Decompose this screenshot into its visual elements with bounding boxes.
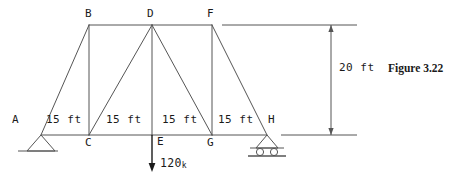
panel-dimension-label-3: 15 ft bbox=[162, 114, 198, 125]
height-dimension-label: 20 ft bbox=[339, 62, 375, 73]
truss-figure: ABCDEFGH 15 ft15 ft15 ft15 ft 20 ft 120k… bbox=[0, 0, 475, 183]
figure-caption: Figure 3.22 bbox=[388, 62, 443, 74]
joint-label-A: A bbox=[12, 114, 19, 125]
height-dimension-arrowhead-bottom bbox=[328, 128, 333, 135]
roller-wheel-2 bbox=[270, 148, 277, 155]
height-dimension-arrowhead-top bbox=[328, 25, 333, 32]
load-magnitude-value: 120 bbox=[160, 156, 182, 170]
load-arrow-120k bbox=[149, 135, 156, 172]
panel-dimension-label-4: 15 ft bbox=[218, 114, 254, 125]
truss-diagram-canvas bbox=[0, 0, 475, 183]
panel-dimension-label-2: 15 ft bbox=[106, 114, 142, 125]
panel-dimension-label-1: 15 ft bbox=[46, 114, 82, 125]
roller-support-triangle bbox=[256, 135, 278, 148]
joint-label-F: F bbox=[207, 8, 214, 19]
load-unit-subscript: k bbox=[182, 161, 187, 170]
pin-support-A bbox=[18, 135, 58, 151]
load-arrow-head bbox=[149, 163, 156, 172]
joint-label-D: D bbox=[147, 8, 154, 19]
joint-label-E: E bbox=[157, 136, 164, 147]
joint-label-G: G bbox=[207, 137, 214, 148]
joint-label-B: B bbox=[85, 8, 92, 19]
load-magnitude-label: 120k bbox=[160, 158, 187, 170]
pin-support-triangle bbox=[27, 135, 55, 151]
roller-wheel-1 bbox=[256, 148, 263, 155]
height-dimension-line bbox=[328, 25, 333, 135]
joint-label-C: C bbox=[85, 137, 92, 148]
roller-support-H bbox=[248, 135, 286, 156]
joint-label-H: H bbox=[268, 114, 275, 125]
